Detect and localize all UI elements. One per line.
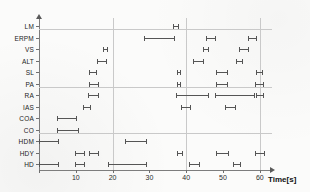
interval-bar — [125, 141, 147, 142]
interval-cap-left — [177, 70, 178, 75]
interval-cap-right — [242, 59, 243, 64]
y-tick — [36, 72, 39, 73]
interval-marker — [193, 59, 204, 64]
x-tick-label: 60 — [256, 174, 264, 181]
interval-marker — [108, 162, 147, 167]
interval-marker — [233, 162, 241, 167]
interval-bar — [57, 118, 77, 119]
interval-marker — [89, 82, 99, 87]
x-tick-label: 30 — [145, 174, 153, 181]
interval-cap-left — [103, 47, 104, 52]
interval-cap-left — [233, 162, 234, 167]
interval-marker — [75, 151, 85, 156]
interval-cap-right — [215, 36, 216, 41]
x-tick — [260, 170, 261, 173]
interval-cap-left — [216, 82, 217, 87]
interval-marker — [256, 70, 263, 75]
interval-cap-right — [199, 162, 200, 167]
y-tick-label-erpm: ERPM — [0, 34, 34, 41]
interval-cap-right — [228, 151, 229, 156]
x-tick — [149, 170, 150, 173]
vertical-gridline — [113, 18, 114, 170]
interval-cap-right — [263, 93, 264, 98]
interval-cap-left — [248, 36, 249, 41]
y-axis-arrow-icon — [36, 14, 42, 19]
interval-cap-right — [84, 162, 85, 167]
interval-cap-right — [256, 36, 257, 41]
horizontal-gridline — [39, 29, 272, 30]
interval-cap-right — [78, 128, 79, 133]
interval-marker — [206, 36, 215, 41]
interval-cap-left — [256, 93, 257, 98]
x-tick-label: 50 — [219, 174, 227, 181]
interval-cap-right — [248, 47, 249, 52]
interval-cap-right — [98, 93, 99, 98]
interval-cap-left — [88, 93, 89, 98]
interval-cap-right — [182, 151, 183, 156]
x-tick — [39, 170, 40, 173]
interval-cap-right — [96, 70, 97, 75]
interval-cap-right — [146, 139, 147, 144]
interval-cap-right — [190, 105, 191, 110]
interval-cap-right — [208, 47, 209, 52]
y-tick-label-co: CO — [0, 126, 34, 133]
y-axis-line — [39, 18, 40, 170]
interval-marker — [248, 36, 257, 41]
interval-cap-left — [83, 105, 84, 110]
interval-cap-left — [75, 162, 76, 167]
x-tick-label: 40 — [182, 174, 190, 181]
interval-cap-left — [239, 47, 240, 52]
interval-cap-left — [203, 47, 204, 52]
interval-cap-right — [174, 36, 175, 41]
y-tick-label-alt: ALT — [0, 57, 34, 64]
interval-cap-right — [178, 24, 179, 29]
interval-cap-left — [177, 151, 178, 156]
interval-cap-right — [208, 93, 209, 98]
interval-marker — [216, 151, 229, 156]
y-tick-label-hd: HD — [0, 161, 34, 168]
interval-cap-right — [254, 93, 255, 98]
interval-marker — [177, 151, 183, 156]
interval-cap-left — [97, 59, 98, 64]
y-tick — [36, 130, 39, 131]
interval-marker — [181, 105, 191, 110]
y-tick — [36, 49, 39, 50]
x-tick — [113, 170, 114, 173]
interval-cap-right — [240, 162, 241, 167]
interval-marker — [189, 162, 200, 167]
horizontal-gridline — [39, 133, 272, 134]
y-tick-label-ra: RA — [0, 92, 34, 99]
interval-cap-left — [89, 151, 90, 156]
interval-marker — [39, 139, 59, 144]
interval-marker — [125, 139, 147, 144]
interval-cap-left — [256, 70, 257, 75]
interval-cap-left — [181, 105, 182, 110]
interval-cap-left — [144, 36, 145, 41]
interval-cap-right — [264, 151, 265, 156]
interval-cap-left — [193, 59, 194, 64]
interval-cap-right — [146, 162, 147, 167]
interval-marker — [177, 82, 181, 87]
interval-cap-right — [58, 162, 59, 167]
interval-cap-right — [106, 59, 107, 64]
interval-bar — [144, 38, 175, 39]
interval-marker — [239, 47, 249, 52]
y-tick-label-ias: IAS — [0, 103, 34, 110]
y-tick — [36, 118, 39, 119]
interval-cap-right — [227, 82, 228, 87]
interval-cap-left — [189, 162, 190, 167]
interval-cap-right — [227, 70, 228, 75]
interval-marker — [97, 59, 107, 64]
interval-marker — [144, 36, 175, 41]
x-axis-arrow-icon — [270, 167, 275, 173]
interval-cap-left — [255, 82, 256, 87]
interval-cap-left — [173, 24, 174, 29]
interval-cap-right — [98, 151, 99, 156]
y-tick — [36, 95, 39, 96]
interval-marker — [88, 93, 99, 98]
interval-cap-right — [203, 59, 204, 64]
interval-cap-right — [76, 116, 77, 121]
interval-cap-left — [125, 139, 126, 144]
interval-cap-left — [89, 70, 90, 75]
x-tick — [186, 170, 187, 173]
